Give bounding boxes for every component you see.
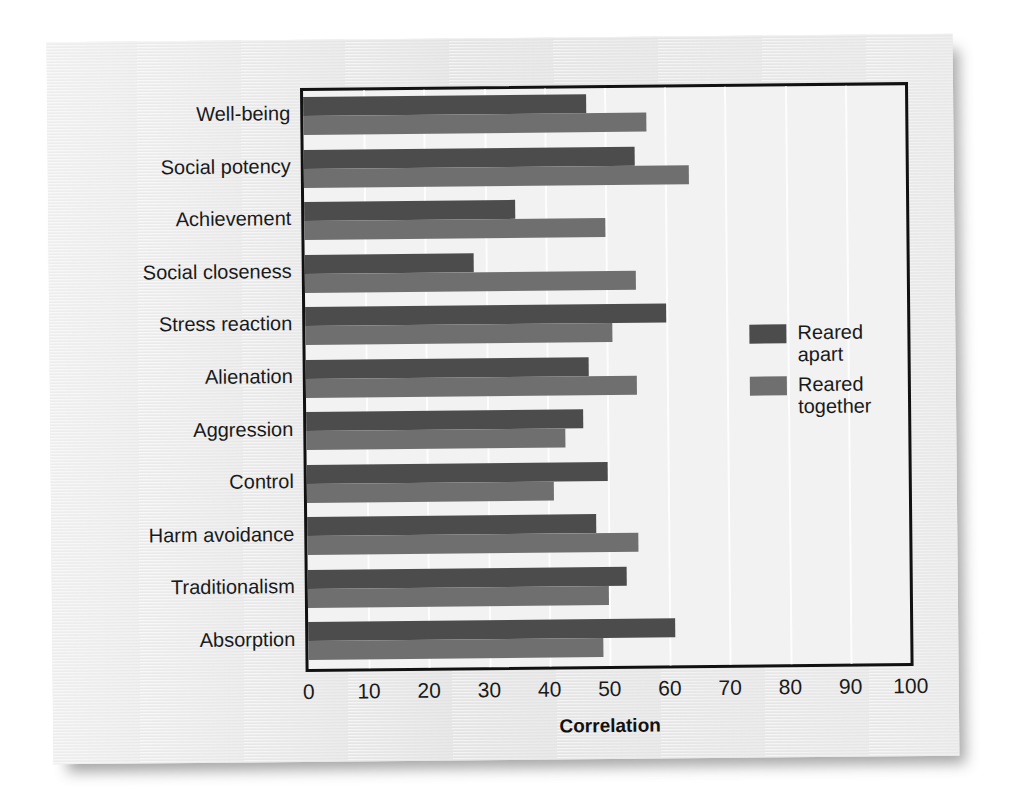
figure-card: Well-beingSocial potencyAchievementSocia… [47,34,960,765]
x-tick-label: 40 [538,677,562,701]
legend-item: Reared together [750,372,925,418]
x-tick-label: 60 [658,676,682,700]
category-axis-labels: Well-beingSocial potencyAchievementSocia… [47,88,296,674]
bar-reared-apart [308,619,675,642]
bar-group [307,509,909,567]
bar-reared-together [305,270,636,292]
category-label: Aggression [43,419,293,441]
bar-reared-together [303,113,646,135]
category-label: Social potency [41,156,291,178]
category-label: Social closeness [42,261,292,283]
chart-legend: Reared apartReared together [749,320,925,425]
figure-page: Well-beingSocial potencyAchievementSocia… [0,0,1022,798]
bar-chart: Well-beingSocial potencyAchievementSocia… [47,34,960,765]
x-tick-label: 80 [779,675,803,699]
bar-reared-together [308,639,603,661]
bar-reared-together [307,481,554,502]
bar-reared-apart [305,253,474,274]
bar-group [308,615,910,673]
x-tick-label: 0 [303,680,315,704]
legend-swatch [749,324,786,343]
bar-reared-together [305,323,612,345]
bar-group [304,142,906,200]
bar-reared-together [304,218,605,240]
x-tick-label: 10 [357,679,381,703]
legend-swatch [750,376,787,395]
category-label: Well-being [40,103,290,125]
bar-reared-together [307,533,638,555]
bar-reared-apart [307,462,608,484]
category-label: Absorption [45,629,295,651]
x-tick-label: 20 [417,679,441,703]
x-tick-label: 100 [893,674,928,698]
bar-group [303,89,905,147]
x-tick-label: 90 [839,675,863,699]
bar-group [304,194,906,252]
category-label: Harm avoidance [44,524,294,546]
bar-group [305,247,907,305]
x-tick-label: 70 [718,676,742,700]
bar-reared-together [306,375,637,397]
legend-item: Reared apart [749,320,924,366]
category-label: Stress reaction [42,313,292,335]
legend-label: Reared together [798,372,913,418]
legend-label: Reared apart [797,320,912,366]
bar-reared-together [304,165,689,188]
bar-group [308,562,910,620]
x-axis-title: Correlation [306,712,914,740]
category-label: Achievement [41,208,291,230]
x-tick-label: 50 [598,677,622,701]
category-label: Control [44,471,294,493]
category-label: Alienation [43,366,293,388]
bar-group [307,457,909,515]
bar-reared-apart [304,200,515,221]
bar-reared-together [308,586,609,608]
x-tick-label: 30 [478,678,502,702]
bar-reared-together [306,429,565,450]
x-axis-tick-labels: 0102030405060708090100 [306,674,914,710]
category-label: Traditionalism [45,576,295,598]
